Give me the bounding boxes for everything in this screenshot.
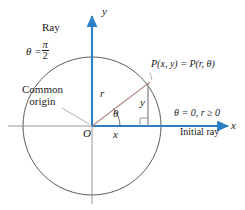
horizontal-leg-label: x: [113, 129, 118, 141]
common-origin-label: Common origin: [22, 84, 63, 107]
origin-label: O: [83, 128, 91, 140]
polar-coordinates-figure: Ray θ =π2 y x P(x, y) = P(r, θ) Common o…: [0, 0, 245, 210]
angle-theta-label: θ: [113, 108, 118, 120]
common-origin-line-1: Common: [22, 83, 63, 95]
theta-half-pi-label: θ =π2: [26, 40, 49, 62]
ray-label: Ray: [42, 22, 60, 34]
fraction-denominator: 2: [42, 51, 49, 62]
theta-half-pi-prefix: θ =: [26, 45, 42, 57]
vertical-leg-label: y: [140, 97, 145, 109]
radius-label: r: [100, 88, 104, 100]
initial-ray-label: Initial ray: [180, 127, 219, 138]
pi-over-two-fraction: π2: [42, 40, 49, 62]
common-origin-leader: [62, 108, 89, 124]
right-angle-marker: [140, 118, 148, 126]
point-label-leader: [150, 73, 152, 80]
point-label: P(x, y) = P(r, θ): [151, 59, 215, 70]
x-axis-label: x: [231, 120, 236, 132]
theta-zero-label: θ = 0, r ≥ 0: [174, 108, 220, 119]
common-origin-line-2: origin: [29, 95, 55, 107]
y-axis-label: y: [102, 6, 107, 18]
